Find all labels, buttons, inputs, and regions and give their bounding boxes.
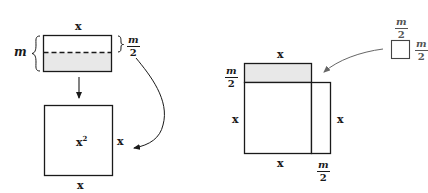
completing-the-square-diagram: x m m 2 x2 x x x m 2 x x x m 2 m 2 m 2 (0, 0, 428, 193)
strip-top-label: x (277, 49, 284, 60)
right-figure (245, 64, 331, 154)
main-square-left-label: x (232, 114, 239, 125)
rect-half-fraction: m 2 (127, 35, 140, 58)
small-square-top-fraction: m 2 (395, 17, 408, 40)
main-square-bottom-label: x (277, 158, 284, 169)
left-rectangle (44, 36, 112, 72)
square-bottom-label: x (77, 180, 84, 191)
rect-top-label: x (75, 21, 82, 32)
shaded-strip (245, 64, 312, 83)
small-square-right-fraction: m 2 (415, 39, 428, 62)
shaded-half (44, 53, 112, 72)
left-brace-icon (32, 36, 40, 71)
square-center-label: x2 (76, 137, 87, 148)
curved-arrow-icon (134, 58, 164, 148)
gray-curved-arrow-icon (324, 49, 383, 72)
square-right-label: x (117, 136, 124, 147)
side-strip-bottom-fraction: m 2 (317, 160, 330, 183)
side-strip (312, 83, 331, 154)
strip-left-fraction: m 2 (225, 66, 238, 89)
diagram-shapes (0, 0, 428, 193)
side-strip-right-label: x (337, 114, 344, 125)
main-square (245, 83, 312, 154)
rect-left-brace-label: m (14, 46, 27, 58)
right-brace-icon (118, 36, 124, 52)
small-square (392, 41, 410, 59)
